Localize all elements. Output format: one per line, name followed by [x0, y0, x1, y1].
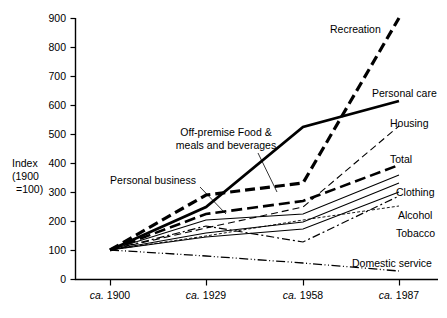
y-tick-label: 600 [48, 99, 66, 111]
x-tick-label: ca.1900 [90, 289, 131, 301]
x-axis-ticks [111, 280, 400, 286]
line-chart: 900 800 700 600 500 400 300 200 100 0 In… [0, 0, 447, 318]
series-label-tobacco: Tobacco [396, 227, 435, 239]
x-tick-year: 1987 [396, 289, 420, 301]
series-label-personal-care: Personal care [372, 87, 437, 99]
y-axis-title: Index (1900 =100) [12, 157, 43, 195]
series-label-domestic-service: Domestic service [352, 257, 432, 269]
y-axis-title-line: Index [12, 157, 38, 169]
x-tick-year: 1929 [203, 289, 227, 301]
series-label-housing: Housing [390, 117, 429, 129]
y-tick-label: 900 [48, 12, 66, 24]
x-tick-label: ca.1958 [283, 289, 324, 301]
y-axis-ticks [71, 19, 76, 280]
y-tick-label: 100 [48, 244, 66, 256]
x-tick-label: ca.1987 [379, 289, 420, 301]
y-tick-label: 400 [48, 157, 66, 169]
x-tick-year: 1958 [300, 289, 324, 301]
y-tick-label: 700 [48, 70, 66, 82]
annotation-line: meals and beverages [176, 139, 276, 151]
annotation-line: Off-premise Food & [180, 126, 271, 138]
y-axis-tick-labels: 900 800 700 600 500 400 300 200 100 0 [48, 12, 66, 285]
y-tick-label: 300 [48, 186, 66, 198]
x-axis-tick-labels: ca.1900 ca.1929 ca.1958 ca.1987 [90, 289, 420, 301]
y-tick-label: 0 [60, 273, 66, 285]
y-tick-label: 200 [48, 215, 66, 227]
series-label-clothing: Clothing [396, 186, 435, 198]
series-label-total: Total [390, 153, 412, 165]
series-label-recreation: Recreation [330, 23, 381, 35]
y-tick-label: 800 [48, 41, 66, 53]
x-tick-ca: ca. [283, 289, 297, 301]
x-tick-label: ca.1929 [186, 289, 227, 301]
y-axis-title-line: (1900 [12, 170, 39, 182]
annotation-line: Personal business [110, 174, 196, 186]
x-tick-ca: ca. [379, 289, 393, 301]
x-tick-ca: ca. [186, 289, 200, 301]
x-tick-ca: ca. [90, 289, 104, 301]
y-axis-title-line: =100) [16, 183, 43, 195]
chart-svg: 900 800 700 600 500 400 300 200 100 0 In… [0, 0, 447, 318]
annotation-leader-line [200, 187, 226, 214]
x-tick-year: 1900 [107, 289, 131, 301]
y-tick-label: 500 [48, 128, 66, 140]
series-label-alcohol: Alcohol [398, 209, 432, 221]
